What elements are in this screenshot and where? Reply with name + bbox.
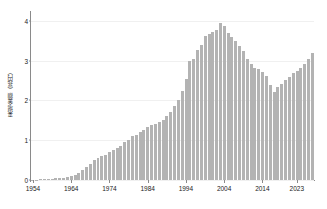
bar [311,53,314,180]
x-axis-tick-mark [109,180,110,183]
x-axis-tick-label: 2014 [255,185,269,192]
x-axis-tick-label: 1964 [64,185,78,192]
x-axis-tick-mark [33,180,34,183]
bar-chart: 来場金額（兆円） 01234 1954196419741984199420042… [0,0,327,209]
y-axis-tick-label: 3 [12,57,28,64]
plot-area [31,13,314,180]
x-axis-tick-mark [262,180,263,183]
x-axis-tick-mark [186,180,187,183]
x-axis-tick-label: 2023 [290,185,304,192]
y-axis-tick-label: 1 [12,137,28,144]
x-axis-tick-label: 1974 [102,185,116,192]
gridline [31,180,314,181]
x-axis-tick-label: 2004 [217,185,231,192]
x-axis-tick-mark [148,180,149,183]
bar-slot [310,13,314,180]
x-axis-tick-labels: 19541964197419841994200420142023 [31,183,314,199]
x-axis-tick-label: 1994 [179,185,193,192]
x-axis-tick-mark [297,180,298,183]
y-axis-tick-label: 0 [12,177,28,184]
y-axis-tick-label: 2 [12,97,28,104]
y-axis-tick-labels: 01234 [8,13,28,180]
y-axis-tick-label: 4 [12,17,28,24]
x-axis-tick-label: 1954 [26,185,40,192]
bar-series [31,13,314,180]
x-axis-tick-mark [224,180,225,183]
x-axis-tick-label: 1984 [140,185,154,192]
x-axis-tick-mark [71,180,72,183]
